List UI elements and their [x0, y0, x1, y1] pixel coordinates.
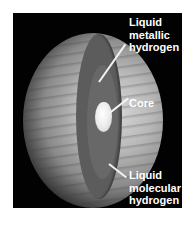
- label-core: Core: [129, 97, 154, 110]
- diagram-panel: Liquid metallic hydrogen Core Liquid mol…: [13, 13, 182, 208]
- core-region: [95, 102, 112, 132]
- label-liquid-molecular-hydrogen: Liquid molecular hydrogen: [129, 169, 181, 207]
- label-liquid-metallic-hydrogen: Liquid metallic hydrogen: [129, 16, 179, 54]
